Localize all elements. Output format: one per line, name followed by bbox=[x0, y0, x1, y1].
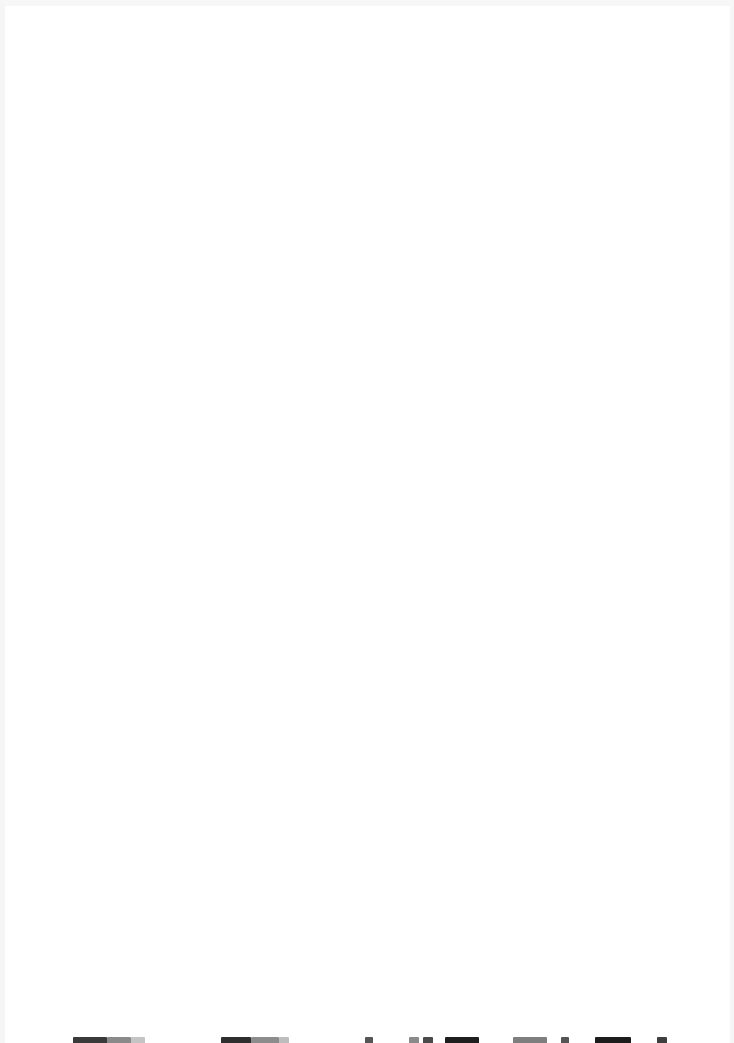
clipped-text-line bbox=[5, 1035, 730, 1043]
clipped-glyph-fragment bbox=[561, 1037, 569, 1043]
clipped-glyph-fragment bbox=[279, 1037, 289, 1043]
clipped-glyph-fragment bbox=[131, 1037, 145, 1043]
clipped-glyph-fragment bbox=[513, 1037, 547, 1043]
clipped-glyph-fragment bbox=[73, 1037, 107, 1043]
clipped-glyph-fragment bbox=[251, 1037, 279, 1043]
clipped-glyph-fragment bbox=[107, 1037, 131, 1043]
clipped-glyph-fragment bbox=[365, 1037, 373, 1043]
clipped-glyph-fragment bbox=[657, 1037, 667, 1043]
clipped-glyph-fragment bbox=[445, 1037, 479, 1043]
blank-document-page bbox=[0, 0, 734, 1043]
clipped-glyph-fragment bbox=[221, 1037, 251, 1043]
clipped-glyph-fragment bbox=[409, 1037, 419, 1043]
clipped-glyph-fragment bbox=[595, 1037, 631, 1043]
page-canvas bbox=[5, 6, 730, 1043]
clipped-glyph-fragment bbox=[423, 1037, 433, 1043]
